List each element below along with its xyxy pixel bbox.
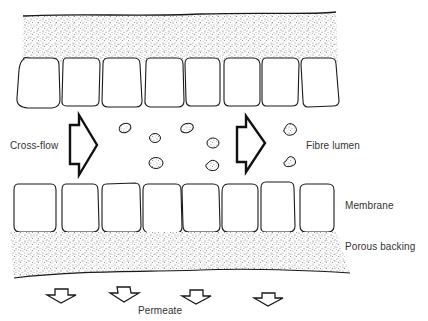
bottom-porous-layer (10, 232, 350, 278)
cross-flow-arrow-right (237, 116, 265, 172)
bottom-membrane-cells (14, 182, 334, 233)
permeate-arrow (47, 289, 76, 303)
top-membrane-cells (17, 58, 339, 108)
cross-flow-arrow-left (70, 115, 97, 175)
particle (149, 158, 163, 169)
membrane-diagram (0, 0, 428, 321)
particle (118, 122, 132, 135)
membrane-label: Membrane (345, 200, 394, 211)
porous-backing-label: Porous backing (345, 241, 415, 252)
particle (207, 138, 219, 148)
particle (284, 157, 296, 167)
particle (150, 134, 161, 143)
permeate-label: Permeate (138, 305, 182, 316)
particle (206, 160, 219, 170)
cross-flow-label: Cross-flow (10, 140, 58, 151)
permeate-arrow (254, 293, 283, 306)
permeate-arrow (110, 287, 139, 302)
fibre-lumen-label: Fibre lumen (306, 140, 360, 151)
particles (118, 122, 297, 171)
permeate-arrow (182, 290, 211, 304)
particle (179, 122, 194, 135)
particle (284, 124, 297, 136)
top-porous-layer (22, 12, 338, 62)
permeate-arrows (47, 287, 283, 306)
